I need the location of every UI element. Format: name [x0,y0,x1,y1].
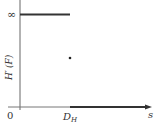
origin-label: 0 [7,110,13,121]
x-axis-label: s [148,109,153,120]
x-tick-dh: DH [62,111,78,124]
chart-canvas: ∞ 0 DH s H′(F) [0,0,156,132]
isolated-point [69,57,72,60]
svg-text:H′(F): H′(F) [4,54,14,81]
y-axis-label: H′(F) [4,54,14,81]
y-tick-infinity: ∞ [7,8,16,21]
